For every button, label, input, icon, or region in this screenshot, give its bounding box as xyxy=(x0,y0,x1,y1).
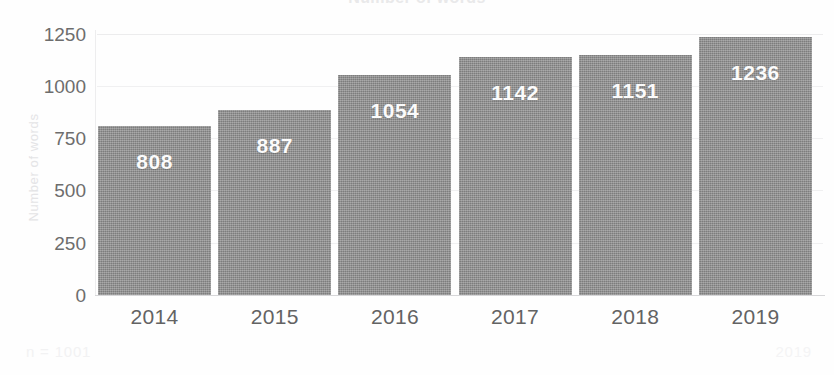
x-tick-label-2016: 2016 xyxy=(338,305,451,329)
x-tick-label-2019: 2019 xyxy=(699,305,812,329)
x-tick-label-2014: 2014 xyxy=(98,305,211,329)
chart-screenshot: Number of words Number of words 1250 100… xyxy=(0,0,834,375)
sample-size-note: n = 1001 xyxy=(26,343,91,360)
bar-value-label-2015: 887 xyxy=(218,134,331,158)
x-tick-label-2018: 2018 xyxy=(579,305,692,329)
bar-value-label-2018: 1151 xyxy=(579,79,692,103)
bar-value-label-2014: 808 xyxy=(98,150,211,174)
x-tick-label-2015: 2015 xyxy=(218,305,331,329)
plot-area: Number of words 1250 1000 750 500 250 0 … xyxy=(0,0,834,375)
bar-value-label-2016: 1054 xyxy=(338,99,451,123)
bar-value-label-2017: 1142 xyxy=(459,81,572,105)
x-tick-label-2017: 2017 xyxy=(459,305,572,329)
bar-value-label-2019: 1236 xyxy=(699,61,812,85)
bars-layer: 8082014887201510542016114220171151201812… xyxy=(0,0,834,375)
year-note: 2019 xyxy=(775,343,812,360)
